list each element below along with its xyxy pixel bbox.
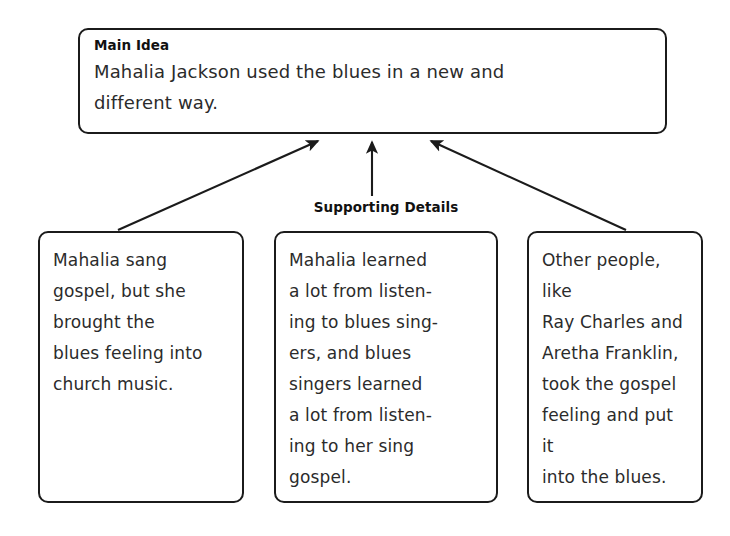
supporting-detail-box-3: Other people, like Ray Charles and Areth…	[527, 231, 703, 503]
supporting-detail-text-1: Mahalia sang gospel, but she brought the…	[53, 245, 229, 400]
arrow-detail-1-to-main	[118, 141, 318, 230]
main-idea-box: Main Idea Mahalia Jackson used the blues…	[78, 28, 667, 134]
supporting-details-label: Supporting Details	[274, 199, 498, 216]
graphic-organizer: Main Idea Mahalia Jackson used the blues…	[0, 0, 730, 536]
supporting-detail-text-3: Other people, like Ray Charles and Areth…	[542, 245, 688, 493]
arrow-detail-3-to-main	[431, 141, 626, 230]
supporting-detail-box-1: Mahalia sang gospel, but she brought the…	[38, 231, 244, 503]
supporting-detail-text-2: Mahalia learned a lot from listen- ing t…	[289, 245, 483, 493]
main-idea-heading: Main Idea	[94, 37, 651, 54]
main-idea-text: Mahalia Jackson used the blues in a new …	[94, 56, 651, 118]
footer-cropped-text	[8, 522, 278, 536]
supporting-detail-box-2: Mahalia learned a lot from listen- ing t…	[274, 231, 498, 503]
